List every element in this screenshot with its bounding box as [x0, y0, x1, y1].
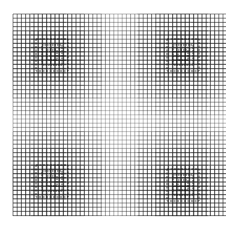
grid-artwork — [0, 0, 238, 230]
